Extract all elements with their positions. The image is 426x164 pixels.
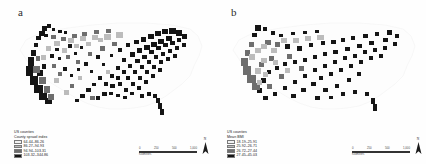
legend-a-swatch-2 (14, 145, 22, 149)
legend-b-swatch-2 (227, 145, 235, 149)
figure-two-panel-maps: a (0, 0, 426, 164)
legend-a-class-4: 103.32–344.86 (14, 153, 88, 158)
legend-b-subtitle: Mean BMI (227, 135, 301, 140)
map-b-svg (219, 10, 424, 130)
scalebar-b-tick-0: 0 (352, 147, 354, 150)
scalebar-a: 0 250 500 1,000 Kilometers (139, 147, 197, 156)
map-a-svg (6, 10, 211, 130)
legend-b-class-4: 27.45–45.03 (227, 153, 301, 158)
scalebar-b-seg-3 (391, 151, 410, 153)
north-arrow-icon (414, 142, 423, 155)
map-a-sprawl-index (6, 10, 211, 130)
legend-a-swatch-3 (14, 149, 22, 153)
legend-b-label-4: 27.45–45.03 (237, 153, 258, 158)
scalebar-a-tick-2: 500 (172, 147, 177, 150)
scalebar-a-seg-3 (178, 151, 197, 153)
scalebar-a-seg-2 (158, 151, 177, 153)
scalebar-a-tick-0: 0 (139, 147, 141, 150)
legend-b-swatch-1 (227, 140, 235, 144)
scalebar-a-tick-1: 250 (154, 147, 159, 150)
legend-a: US counties County sprawl index 64.44–86… (14, 130, 88, 158)
scalebar-b-tick-1: 250 (367, 147, 372, 150)
legend-a-swatch-1 (14, 140, 22, 144)
panel-b: b (213, 0, 426, 164)
scalebar-a-ticks: 0 250 500 1,000 (139, 147, 197, 150)
scalebar-b-unit: Kilometers (352, 153, 410, 156)
scalebar-b-tick-3: 1,000 (403, 147, 410, 150)
north-arrow-icon (201, 142, 210, 155)
legend-a-swatch-4 (14, 154, 22, 158)
scalebar-a-unit: Kilometers (139, 153, 197, 156)
legend-a-label-4: 103.32–344.86 (24, 153, 49, 158)
scalebar-b: 0 250 500 1,000 Kilometers (352, 147, 410, 156)
panel-a: a (0, 0, 213, 164)
legend-b: US counties Mean BMI 18.19–25.91 25.92–2… (227, 130, 301, 158)
legend-b-swatch-4 (227, 154, 235, 158)
scalebar-a-tick-3: 1,000 (190, 147, 197, 150)
scalebar-b-tick-2: 500 (385, 147, 390, 150)
legend-a-subtitle: County sprawl index (14, 135, 88, 140)
map-b-mean-bmi (219, 10, 424, 130)
north-arrow-b: N (412, 138, 424, 158)
scalebar-b-ticks: 0 250 500 1,000 (352, 147, 410, 150)
map-a-counties (20, 23, 202, 115)
scalebar-b-seg-2 (371, 151, 390, 153)
north-arrow-a: N (199, 138, 211, 158)
legend-b-swatch-3 (227, 149, 235, 153)
map-b-counties (233, 23, 415, 111)
